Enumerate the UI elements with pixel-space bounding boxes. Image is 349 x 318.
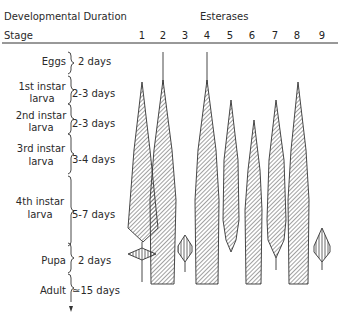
esterase-3-band (178, 235, 192, 272)
esterase-9-band (314, 228, 330, 270)
esterase-5-band (223, 100, 239, 252)
esterase-diagram (0, 0, 349, 318)
esterase-7-band (267, 100, 286, 270)
esterase-2-band (150, 52, 176, 284)
esterase-4-band (195, 52, 219, 284)
timeline-arrow-icon (69, 306, 73, 312)
esterase-6-band (245, 120, 262, 284)
timeline-braces (68, 52, 74, 302)
esterase-8-band (288, 82, 309, 284)
